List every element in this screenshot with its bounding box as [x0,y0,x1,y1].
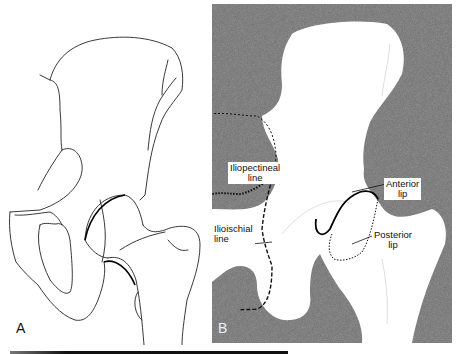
hip-line-drawing [0,0,212,345]
panel-letter-b: B [218,320,227,336]
label-iliopectineal-line: Iliopectineal line [228,162,282,184]
panel-a-line-drawing: A [0,0,212,345]
label-ilioischial-line: Ilioischial line [212,223,255,245]
label-iliopectineal-line2: line [230,173,280,183]
label-anterior-lip: Anterior lip [384,178,421,200]
panel-b-radiograph: B Iliopectineal line Ilioischial line An… [212,4,452,343]
label-ilioischial-line2: line [214,234,253,244]
panel-letter-a: A [16,320,25,336]
label-posterior-lip-line2: lip [374,240,412,250]
label-anterior-lip-line2: lip [386,189,419,199]
label-posterior-lip: Posterior lip [372,229,414,251]
